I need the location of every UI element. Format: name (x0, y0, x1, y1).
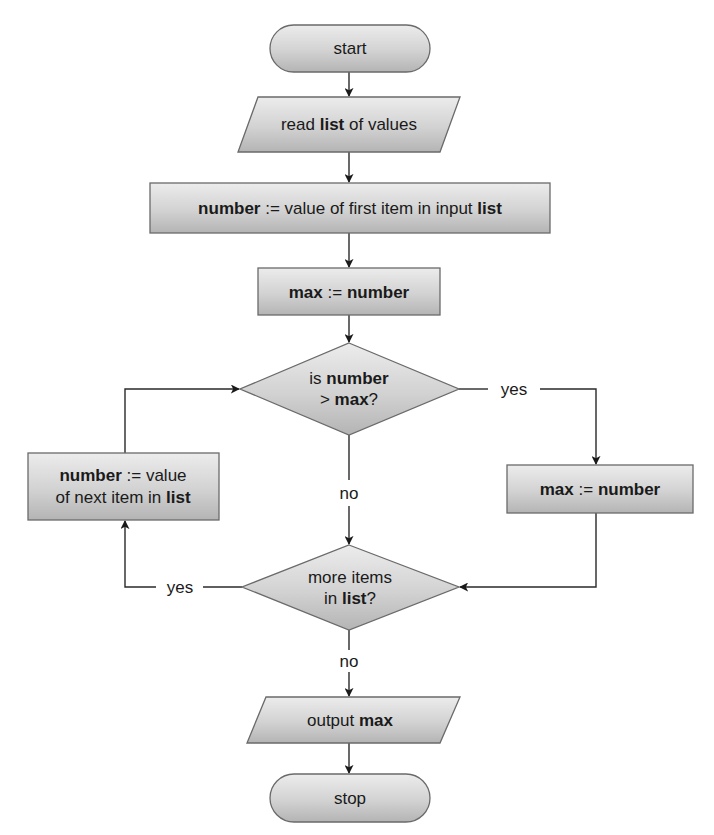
more-items-line2: in list? (324, 589, 376, 608)
process-shape (28, 453, 219, 520)
next-item-line2: of next item in list (55, 488, 190, 507)
node-update-max: max := number (507, 465, 693, 513)
node-init-max: max := number (258, 268, 440, 315)
node-next-item: number := value of next item in list (28, 453, 219, 520)
node-start: start (270, 25, 430, 72)
node-compare: is number > max? (240, 343, 459, 435)
node-init-number: number := value of first item in input l… (150, 183, 550, 233)
edge-update-more (460, 513, 596, 587)
more-items-line1: more items (308, 568, 392, 587)
edge-next-compare (125, 389, 239, 453)
compare-line2: > max? (320, 390, 378, 409)
stop-label: stop (334, 789, 366, 808)
init-max-label: max := number (289, 283, 410, 302)
flowchart-canvas: yes no yes no start read list of values … (0, 0, 714, 835)
edge-label-compare-no: no (340, 484, 359, 503)
edge-label-more-no: no (340, 652, 359, 671)
decision-shape (240, 343, 459, 435)
decision-shape (242, 545, 459, 630)
node-more-items: more items in list? (242, 545, 459, 630)
node-output: output max (247, 697, 460, 743)
edge-compare-yes-b (540, 389, 596, 464)
node-stop: stop (270, 774, 430, 822)
next-item-line1: number := value (59, 466, 186, 485)
update-max-label: max := number (540, 480, 661, 499)
node-read-list: read list of values (238, 97, 460, 152)
read-label: read list of values (281, 115, 417, 134)
edge-more-yes-b (125, 521, 156, 587)
start-label: start (333, 39, 366, 58)
edge-label-more-yes: yes (167, 578, 193, 597)
edge-label-compare-yes: yes (501, 380, 527, 399)
output-label: output max (307, 711, 394, 730)
init-number-label: number := value of first item in input l… (198, 199, 502, 218)
compare-line1: is number (309, 369, 389, 388)
